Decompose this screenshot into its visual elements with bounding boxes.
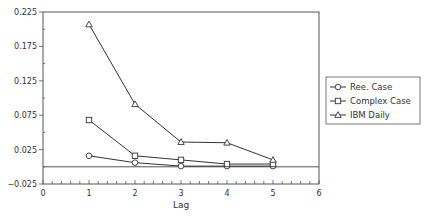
data-point-complex-case [224, 161, 229, 166]
data-point-ibm-daily [132, 101, 138, 107]
x-tick-label: 6 [316, 189, 321, 198]
x-tick-label: 0 [40, 189, 45, 198]
data-point-complex-case [178, 157, 183, 162]
y-tick-label: 0.025 [14, 146, 37, 155]
x-tick-label: 4 [224, 189, 229, 198]
legend: Ree. CaseComplex CaseIBM Daily [326, 77, 420, 124]
y-tick-label: 0.225 [14, 8, 37, 17]
data-point-ibm-daily [86, 21, 92, 27]
data-point-ree-case [132, 160, 138, 166]
y-tick-label: 0.075 [14, 111, 37, 120]
data-point-complex-case [86, 117, 91, 122]
x-tick-label: 2 [132, 189, 137, 198]
data-point-complex-case [132, 153, 137, 158]
y-tick-label: 0.125 [14, 77, 37, 86]
x-tick-label: 1 [86, 189, 91, 198]
y-tick-label: −0.025 [7, 180, 37, 189]
legend-marker-circle-icon [335, 84, 341, 90]
legend-label: Complex Case [350, 96, 411, 106]
y-axis: −0.0250.0250.0750.1250.1750.225 [7, 8, 45, 189]
x-axis-title: Lag [173, 200, 189, 210]
chart: 0123456 −0.0250.0250.0750.1250.1750.225 … [0, 0, 429, 223]
x-tick-label: 5 [270, 189, 275, 198]
y-tick-label: 0.175 [14, 42, 37, 51]
series-ibm-daily [86, 21, 276, 162]
series-layer [86, 21, 276, 169]
data-point-ree-case [178, 163, 184, 169]
data-point-ree-case [86, 153, 92, 159]
legend-label: IBM Daily [350, 110, 390, 120]
x-tick-label: 3 [178, 189, 183, 198]
x-axis: 0123456 [40, 180, 321, 198]
legend-label: Ree. Case [350, 82, 392, 92]
legend-marker-square-icon [335, 98, 340, 103]
